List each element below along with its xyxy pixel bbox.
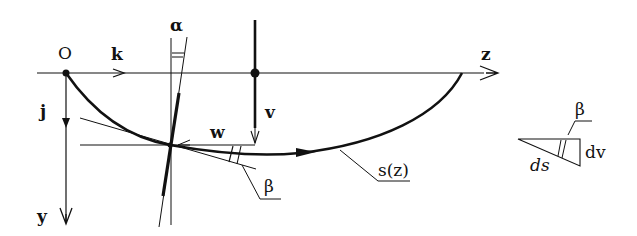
label-inset-dv: dv <box>585 144 606 161</box>
label-v: v <box>265 104 275 121</box>
curve-arrow-icon <box>296 148 316 157</box>
beta-leader-line <box>242 165 281 199</box>
label-j: j <box>40 103 46 120</box>
j-arrow-icon <box>62 118 70 128</box>
inset-beta-tick-2 <box>562 140 566 158</box>
rod-v <box>251 20 260 143</box>
label-alpha: α <box>170 17 183 34</box>
label-curve: s(z) <box>378 162 409 179</box>
rod-pivot-point <box>251 69 260 78</box>
label-inset-ds: ds <box>530 157 550 174</box>
label-k: k <box>111 46 123 63</box>
diagram-svg <box>0 0 637 236</box>
label-origin: O <box>58 45 72 62</box>
y-axis <box>60 73 72 224</box>
intersection-point <box>168 143 173 148</box>
inset-beta-tick-1 <box>558 140 561 156</box>
diagram-canvas: O k j y z α v w β s(z) β dv ds <box>0 0 637 236</box>
label-inset-beta: β <box>575 101 585 118</box>
w-arrow-icon <box>178 140 190 145</box>
label-z: z <box>481 46 491 63</box>
z-axis <box>37 66 498 80</box>
label-y: y <box>37 208 47 225</box>
label-beta: β <box>264 178 274 195</box>
label-w: w <box>210 124 225 141</box>
inset-beta-leader <box>568 121 592 135</box>
curve-s-z <box>66 73 462 155</box>
